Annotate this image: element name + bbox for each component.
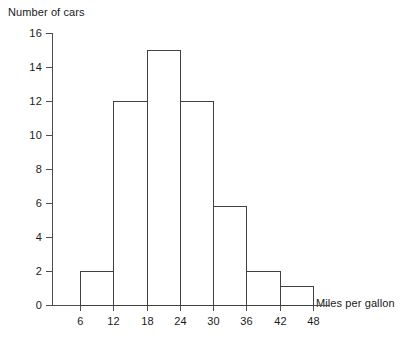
plot-area [0,0,401,341]
y-tick-label: 12 [16,96,42,107]
y-tick-label: 16 [16,28,42,39]
x-tick-label: 18 [133,316,163,327]
x-tick-label: 36 [232,316,262,327]
y-tick-label: 6 [16,198,42,209]
histogram-bar [214,207,247,306]
x-tick-label: 6 [66,316,96,327]
y-tick-label: 4 [16,232,42,243]
histogram-bar [81,272,114,306]
histogram-chart: Number of cars Miles per gallon 02468101… [0,0,401,341]
y-tick-label: 2 [16,266,42,277]
x-tick-label: 24 [166,316,196,327]
x-tick-label: 30 [199,316,229,327]
y-tick-label: 14 [16,62,42,73]
y-tick-label: 8 [16,164,42,175]
histogram-bar [281,287,314,306]
y-tick-label: 10 [16,130,42,141]
histogram-bar [181,102,214,306]
x-tick-label: 48 [299,316,329,327]
histogram-bar [114,102,148,306]
y-tick-label: 0 [16,300,42,311]
x-tick-label: 12 [99,316,129,327]
x-tick-label: 42 [266,316,296,327]
bars [81,51,314,306]
histogram-bar [148,51,181,306]
histogram-bar [247,272,281,306]
